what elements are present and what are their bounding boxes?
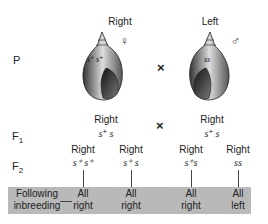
female-symbol-icon: ♀ bbox=[120, 34, 129, 48]
f2-item-2-phenotype: Right bbox=[111, 144, 151, 155]
f1-right-phenotype: Right bbox=[192, 114, 232, 125]
f1-left-genotype: s+ s bbox=[86, 126, 126, 139]
f2-item-2-outcome: Allright bbox=[111, 188, 151, 212]
f1-right-genotype: s+ s bbox=[192, 126, 232, 139]
p-male-phenotype: Left bbox=[190, 16, 230, 27]
f2-item-1-genotype: s⁺ s⁺ bbox=[63, 157, 103, 168]
f1-cross-symbol: × bbox=[156, 118, 164, 133]
band-label: Followinginbreeding bbox=[12, 188, 62, 212]
f2-item-3-connector bbox=[191, 170, 192, 188]
p-female-phenotype: Right bbox=[100, 16, 140, 27]
f1-left-phenotype: Right bbox=[86, 114, 126, 125]
p-row-label: P bbox=[13, 54, 20, 66]
f2-item-4-genotype: ss bbox=[218, 157, 258, 168]
p-cross-symbol: × bbox=[157, 60, 165, 75]
f2-row-label: F2 bbox=[12, 160, 23, 175]
f2-item-3-genotype: s⁺s bbox=[171, 157, 211, 168]
f2-item-4-outcome: Allleft bbox=[218, 188, 258, 212]
f2-item-1-outcome: Allright bbox=[63, 188, 103, 212]
f2-item-2-connector bbox=[131, 170, 132, 188]
svg-text:ss: ss bbox=[204, 55, 210, 64]
f2-item-1-phenotype: Right bbox=[63, 144, 103, 155]
f2-item-4-phenotype: Right bbox=[218, 144, 258, 155]
f2-item-2-genotype: s⁺ s bbox=[111, 157, 151, 168]
male-symbol-icon: ♂ bbox=[231, 34, 240, 48]
f2-item-3-phenotype: Right bbox=[171, 144, 211, 155]
dextral-snail-shell-icon: s+ s+ bbox=[78, 30, 126, 102]
f1-row-label: F1 bbox=[12, 130, 23, 145]
sinistral-snail-shell-icon: ss bbox=[186, 30, 234, 102]
f2-item-3-outcome: Allright bbox=[171, 188, 211, 212]
f2-item-1-connector bbox=[83, 170, 84, 188]
f2-item-4-connector bbox=[238, 170, 239, 188]
